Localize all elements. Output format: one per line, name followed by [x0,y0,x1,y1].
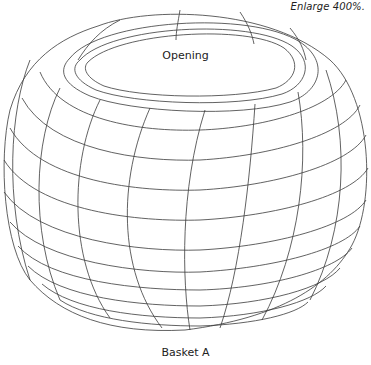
opening-edge [85,34,294,96]
figure-caption: Basket A [0,346,371,359]
opening-label: Opening [0,49,371,62]
rim-outer [64,23,318,112]
parallels [4,72,368,326]
rim-middle [75,29,306,103]
